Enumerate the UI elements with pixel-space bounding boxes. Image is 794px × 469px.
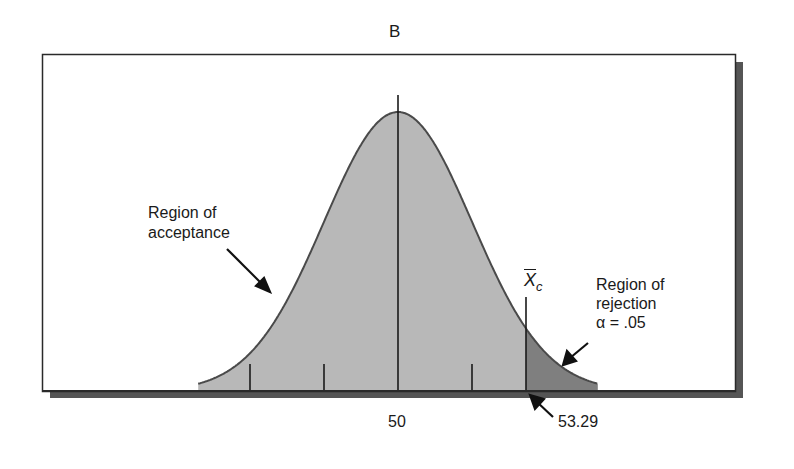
x-bar-symbol: X [524,270,536,290]
critical-tick-label: 53.29 [558,412,598,432]
critical-subscript: c [536,279,543,294]
chart-canvas [0,0,794,469]
acceptance-label-line2: acceptance [148,223,230,243]
acceptance-label: Region of acceptance [148,203,230,243]
rejection-label-line1: Region of [596,275,665,294]
acceptance-label-line1: Region of [148,203,230,223]
mean-tick-label: 50 [388,412,406,432]
rejection-label-line2: rejection [596,294,665,313]
critical-symbol: Xc [524,270,543,297]
rejection-label: Region of rejection α = .05 [596,275,665,332]
alpha-label: α = .05 [596,313,665,332]
chart-title: B [389,22,400,42]
frame-shadow-right [736,62,743,398]
critical-value-arrow [530,395,553,417]
